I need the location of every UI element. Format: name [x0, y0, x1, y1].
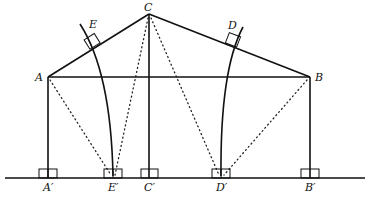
label-B: B — [314, 71, 323, 84]
label-A: A — [34, 71, 43, 84]
label-D: D — [227, 19, 237, 32]
label-E: E — [88, 18, 97, 31]
label-B-prime: B′ — [304, 181, 316, 194]
label-C-prime: C′ — [144, 181, 155, 194]
label-D-prime: D′ — [215, 181, 228, 194]
label-E-prime: E′ — [107, 181, 119, 194]
dotted-C-Eprime — [115, 18, 148, 175]
dotted-B-Dprime — [224, 80, 307, 175]
label-C: C — [144, 1, 153, 14]
dotted-C-Dprime — [151, 18, 219, 175]
label-A-prime: A′ — [42, 181, 54, 194]
geometry-diagram: C E D A B A′ E′ C′ D′ B′ — [0, 0, 370, 197]
dotted-A-Eprime — [50, 80, 111, 175]
